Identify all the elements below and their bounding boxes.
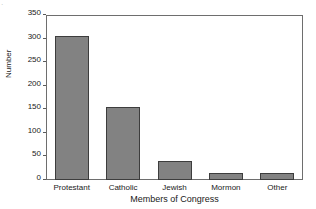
x-tick-label: Mormon [200, 183, 251, 192]
y-axis-title: Number [4, 50, 13, 78]
bar[interactable] [55, 36, 89, 180]
bar[interactable] [209, 173, 243, 180]
bar-chart-figure: · Number 050100150200250300350 Protestan… [0, 0, 316, 209]
x-tick-label: Catholic [97, 183, 148, 192]
bar-slot [260, 15, 294, 180]
y-axis: Number 050100150200250300350 [0, 0, 46, 209]
bar-slot [209, 15, 243, 180]
bar[interactable] [106, 107, 140, 180]
y-tick-label: 150 [28, 103, 41, 111]
bar-slot [106, 15, 140, 180]
x-tick-label: Protestant [46, 183, 97, 192]
y-tick-label: 350 [28, 9, 41, 17]
bar-slot [158, 15, 192, 180]
y-tick-label: 50 [32, 150, 41, 158]
y-tick-label: 100 [28, 127, 41, 135]
x-axis-title: Members of Congress [46, 194, 303, 204]
y-tick-label: 0 [37, 174, 41, 182]
bar[interactable] [158, 161, 192, 180]
x-tick-label: Other [252, 183, 303, 192]
bar-series [46, 15, 303, 180]
bar[interactable] [260, 173, 294, 180]
y-tick-label: 300 [28, 33, 41, 41]
y-tick-label: 200 [28, 80, 41, 88]
bar-slot [55, 15, 89, 180]
x-tick-label: Jewish [149, 183, 200, 192]
y-tick-label: 250 [28, 56, 41, 64]
